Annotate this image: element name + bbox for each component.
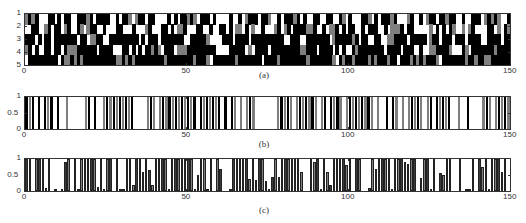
x-tick-label: 0 xyxy=(22,67,26,75)
bar xyxy=(300,172,302,191)
bar xyxy=(329,185,331,191)
y-tick xyxy=(24,129,27,130)
heatmap-cell xyxy=(80,24,84,35)
caption-a: (a) xyxy=(259,70,269,80)
x-tick-top xyxy=(186,13,187,16)
heatmap-cell xyxy=(171,45,175,56)
bar xyxy=(178,97,180,129)
heatmap-cell xyxy=(419,14,423,25)
x-tick-label: 150 xyxy=(503,67,516,75)
x-tick-top xyxy=(348,13,349,16)
bar xyxy=(234,97,236,129)
bar xyxy=(209,97,211,129)
bar xyxy=(388,159,390,191)
bar xyxy=(171,159,173,191)
heatmap-cell xyxy=(116,14,120,25)
heatmap-cell xyxy=(326,34,330,45)
heatmap-cell xyxy=(329,14,333,25)
heatmap-cell xyxy=(74,34,78,45)
bar xyxy=(265,181,267,191)
heatmap-cell xyxy=(352,24,356,35)
bar xyxy=(216,159,218,191)
heatmap-cell xyxy=(432,14,436,25)
heatmap-cell xyxy=(51,14,55,25)
heatmap-cell xyxy=(238,24,242,35)
y-tick xyxy=(24,39,27,40)
bar xyxy=(407,164,409,191)
x-tick-label: 50 xyxy=(181,193,190,201)
heatmap-cell xyxy=(316,14,320,25)
bar xyxy=(427,97,429,129)
x-tick-label: 0 xyxy=(22,131,26,139)
bar xyxy=(29,159,31,191)
bar xyxy=(57,97,59,129)
heatmap-cell xyxy=(497,14,501,25)
bar xyxy=(346,97,348,129)
heatmap-cell xyxy=(238,14,242,25)
x-tick-top xyxy=(348,158,349,161)
bar xyxy=(90,159,92,191)
heatmap-cell xyxy=(442,24,446,35)
bar xyxy=(61,189,63,191)
bar xyxy=(197,175,199,191)
bar xyxy=(290,97,292,129)
heatmap-cell xyxy=(335,45,339,56)
bar xyxy=(448,97,450,129)
bar xyxy=(174,159,176,191)
heatmap-cell xyxy=(491,24,495,35)
bar xyxy=(116,159,118,191)
heatmap-cell xyxy=(213,14,217,25)
bar xyxy=(122,189,124,191)
heatmap-cell xyxy=(287,24,291,35)
bar xyxy=(258,159,260,191)
caption-b: (b) xyxy=(259,139,270,149)
bar xyxy=(391,189,393,191)
heatmap-cell xyxy=(384,24,388,35)
bar xyxy=(239,159,241,191)
bar xyxy=(240,97,242,129)
heatmap-cell xyxy=(28,45,32,56)
bar xyxy=(44,97,46,129)
bar xyxy=(151,185,153,191)
heatmap-cell xyxy=(171,24,175,35)
bar xyxy=(378,159,380,191)
heatmap-cell xyxy=(478,14,482,25)
bar xyxy=(94,97,96,129)
bar xyxy=(411,97,413,129)
y-tick-label: 1 xyxy=(16,9,20,17)
heatmap-cell xyxy=(245,24,249,35)
bar xyxy=(310,159,312,191)
bar xyxy=(413,159,415,191)
bar xyxy=(375,169,377,191)
bar xyxy=(212,97,214,129)
heatmap-cell xyxy=(138,45,142,56)
bar xyxy=(190,97,192,129)
y-tick-right xyxy=(508,96,511,97)
heatmap-cell xyxy=(35,45,39,56)
bar xyxy=(29,97,31,129)
bar xyxy=(64,162,66,191)
heatmap-cell xyxy=(507,45,511,56)
bar xyxy=(339,97,341,129)
x-tick-label: 100 xyxy=(341,131,354,139)
bar xyxy=(193,97,195,129)
x-tick-label: 150 xyxy=(503,131,516,139)
bar xyxy=(93,159,95,191)
bar xyxy=(302,97,304,129)
bar xyxy=(147,97,149,129)
y-tick-right xyxy=(508,113,511,114)
bar xyxy=(200,159,202,191)
heatmap-cell xyxy=(99,34,103,45)
bar xyxy=(472,159,474,191)
bar xyxy=(232,159,234,191)
heatmap-cell xyxy=(251,24,255,35)
bar xyxy=(109,97,111,129)
bar xyxy=(355,97,357,129)
y-tick-label: 4 xyxy=(16,48,20,56)
bar xyxy=(122,97,124,129)
bar xyxy=(88,97,90,129)
value-bar-axes xyxy=(24,158,511,192)
heatmap-cell xyxy=(410,14,414,25)
bar xyxy=(145,159,147,191)
bar xyxy=(47,97,49,129)
